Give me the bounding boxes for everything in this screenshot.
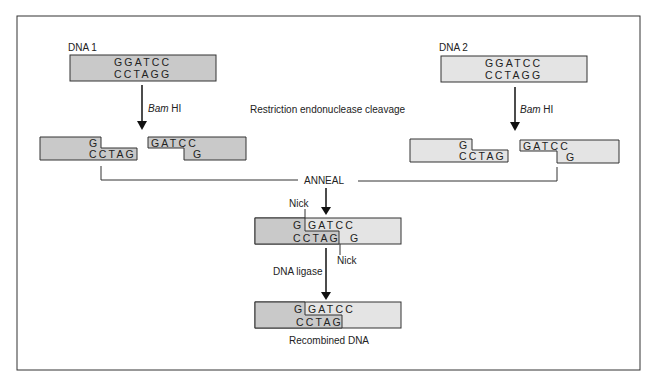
recombined-bottom-left: CCTAG [296, 316, 343, 328]
arrow-head-icon [321, 292, 331, 300]
nick-label-top: Nick [289, 198, 309, 209]
annealed-bottom-left: CCTAG [293, 232, 340, 244]
anneal-line-right [358, 167, 557, 181]
recombined-top-left: G [294, 303, 304, 315]
annealed-top-right: GATCC [308, 219, 355, 231]
frag1-left-bottom: CCTAG [89, 148, 136, 160]
annealed-bottom-right: G [350, 232, 360, 244]
frag2-right-bottom: G [566, 151, 576, 163]
arrow-head-icon [510, 122, 520, 131]
recombined-top-right: GATCC [308, 303, 355, 315]
nick-label-bottom: Nick [337, 255, 357, 266]
anneal-line-left [101, 166, 298, 180]
anneal-label: ANNEAL [304, 175, 344, 186]
dna1-top-strand: GGATCC [114, 56, 171, 68]
ligase-label: DNA ligase [273, 266, 323, 277]
frag1-right-bottom: G [193, 148, 203, 160]
dna2-label: DNA 2 [439, 42, 468, 53]
arrow-head-icon [321, 207, 331, 215]
frag2-left-bottom: CCTAG [459, 150, 506, 162]
arrow-head-icon [137, 121, 147, 130]
dna1-bottom-strand: CCTAGG [114, 68, 171, 80]
dna2-bottom-strand: CCTAGG [485, 69, 542, 81]
frag2-right-top: GATCC [523, 140, 570, 152]
annealed-top-left: G [293, 219, 303, 231]
dna2-top-strand: GGATCC [485, 57, 542, 69]
dna1-label: DNA 1 [68, 42, 97, 53]
cleavage-step-label: Restriction endonuclease cleavage [250, 104, 406, 115]
recombinant-dna-diagram: DNA 1 GGATCC CCTAGG Bam HI Restriction e… [0, 0, 651, 385]
enzyme-label-1: Bam HI [148, 103, 181, 114]
recombined-caption: Recombined DNA [289, 335, 369, 346]
enzyme-label-2: Bam HI [520, 104, 553, 115]
frag1-right-top: GATCC [151, 137, 198, 149]
